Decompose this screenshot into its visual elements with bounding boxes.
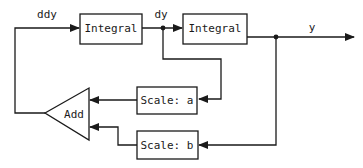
block-diagram: Integral Integral Scale: a Scale: b Add …	[0, 0, 363, 168]
y-junction-dot	[274, 35, 279, 40]
scale-b-label: Scale: b	[141, 139, 194, 152]
add-label: Add	[64, 108, 84, 121]
dy-junction-dot	[161, 26, 166, 31]
ddy-signal-label: ddy	[37, 8, 57, 21]
dy-signal-label: dy	[154, 8, 168, 21]
integral-1-label: Integral	[85, 22, 138, 35]
scale-a-label: Scale: a	[141, 94, 194, 107]
y-signal-label: y	[309, 21, 316, 34]
y-feedback-wire	[199, 37, 276, 145]
integral-2-label: Integral	[189, 22, 242, 35]
scale-b-to-add-wire	[90, 127, 137, 145]
